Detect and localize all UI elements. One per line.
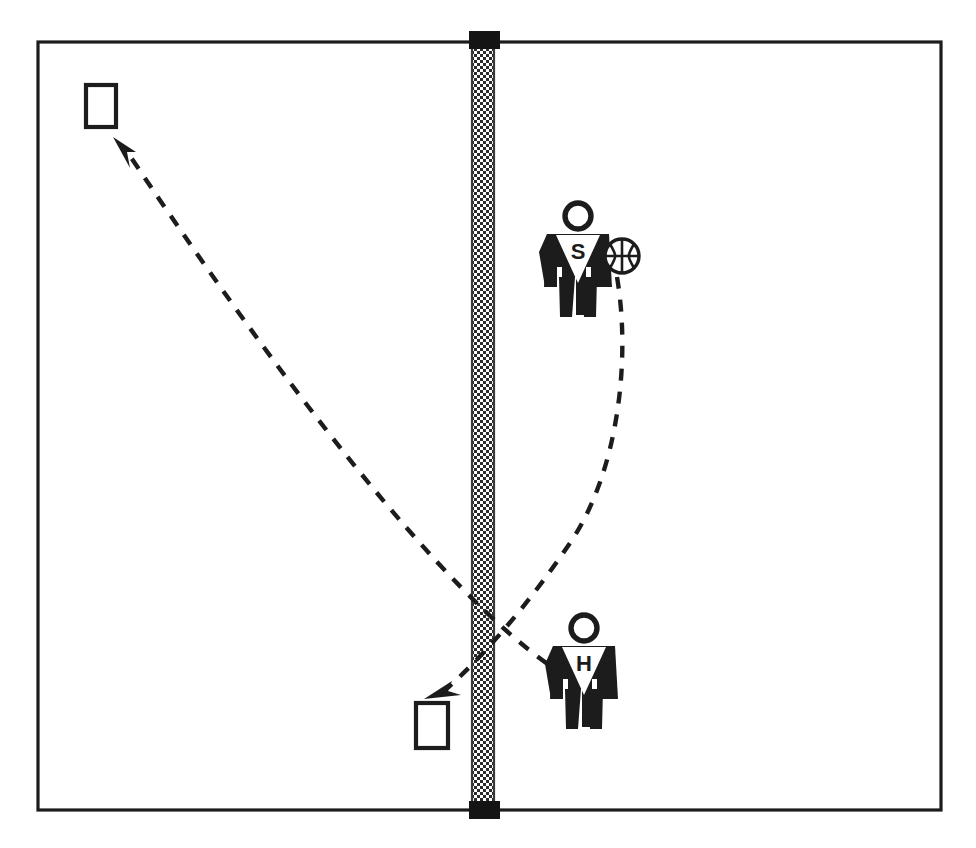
player-s-head — [565, 203, 591, 229]
player-h[interactable]: H — [545, 615, 618, 729]
player-h-head — [571, 615, 597, 641]
player-s-letter: S — [571, 239, 586, 264]
court-diagram: S H — [0, 0, 976, 848]
player-s[interactable]: S — [539, 203, 612, 317]
diagram-canvas: S H — [0, 0, 976, 848]
arrow-head-bottom-mid — [424, 681, 461, 699]
path-return-to-top-left — [113, 137, 566, 676]
net-post-top — [469, 31, 500, 49]
net — [469, 31, 500, 819]
net-post-bottom — [469, 801, 500, 819]
basketball — [605, 239, 639, 273]
player-h-letter: H — [576, 651, 592, 676]
target-box-top-left[interactable] — [86, 85, 116, 127]
target-box-bottom-mid[interactable] — [416, 703, 448, 748]
net-mesh — [473, 42, 493, 810]
